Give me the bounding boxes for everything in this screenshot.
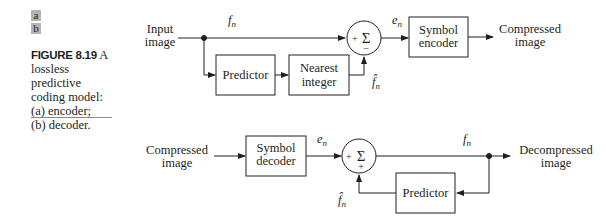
compressed-image-label: image [515, 35, 546, 49]
branch-to-predictor-line [204, 38, 215, 75]
nearest-integer-label: Nearest [300, 61, 339, 75]
symbol-encoder-label: Symbol [419, 23, 458, 37]
en-label: en [317, 132, 328, 148]
sum-plus-sign: + [346, 151, 352, 162]
nearest-integer-label: integer [302, 75, 338, 89]
symbol-encoder-label: encoder [419, 36, 459, 50]
decompressed-image-label: image [541, 156, 572, 170]
predictor-label: Predictor [223, 68, 270, 82]
symbol-decoder-label: Symbol [257, 141, 296, 155]
fn-label: fn [463, 132, 471, 148]
compressed-image-label: image [162, 156, 193, 170]
feedback-to-predictor-line [457, 156, 489, 193]
symbol-decoder-label: decoder [256, 154, 296, 168]
fhat-label: f̂n [372, 74, 380, 91]
predictor-label: Predictor [403, 186, 450, 200]
fhat-label: f̂n [338, 192, 346, 209]
fn-label: fn [228, 13, 236, 29]
input-image-label: image [145, 35, 176, 49]
sum-plus-sign: + [352, 33, 358, 44]
decompressed-image-label: Decompressed [519, 143, 593, 157]
predictive-coding-diagram: Input image fn Predictor Nearest integer… [0, 0, 606, 219]
en-label: en [392, 13, 403, 29]
sum-minus-sign: − [363, 43, 369, 54]
fhat-to-sum-line [349, 57, 364, 75]
compressed-image-label: Compressed [499, 22, 562, 36]
sum-plus-sign: + [358, 161, 364, 172]
fhat-to-sum-line [359, 175, 396, 193]
compressed-image-label: Compressed [146, 143, 209, 157]
input-image-label: Input [147, 22, 174, 36]
